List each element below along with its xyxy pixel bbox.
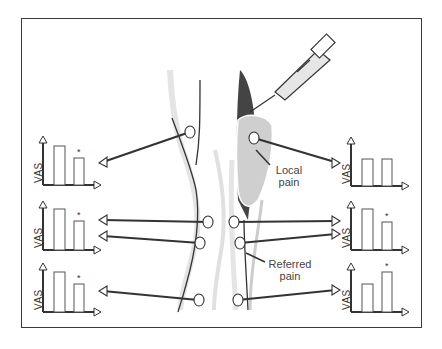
significance-marker: *: [77, 273, 81, 283]
significance-marker: *: [77, 147, 81, 157]
diagram-canvas: [0, 0, 442, 349]
vas-axis-label: VAS: [341, 289, 352, 310]
vas-axis-label: VAS: [341, 227, 352, 248]
vas-axis-label: VAS: [341, 163, 352, 184]
left-leg-illustration: [170, 70, 224, 312]
significance-marker: *: [77, 210, 81, 220]
significance-marker: *: [385, 261, 389, 271]
vas-axis-label: VAS: [33, 227, 44, 248]
vas-axis-label: VAS: [33, 289, 44, 310]
syringe-icon: [250, 34, 335, 112]
vas-axis-label: VAS: [33, 162, 44, 183]
referred-pain-label: Referred pain: [264, 258, 316, 282]
significance-marker: *: [385, 211, 389, 221]
local-pain-label: Local pain: [268, 164, 310, 188]
